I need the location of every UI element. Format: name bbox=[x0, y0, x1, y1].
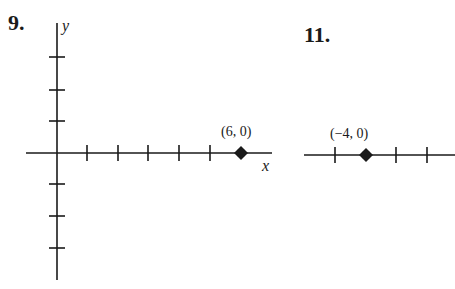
point-label-neg4-0: (−4, 0) bbox=[330, 126, 369, 142]
x-axis-label: x bbox=[261, 157, 269, 174]
problem-11-graph bbox=[304, 147, 455, 163]
problem-9-graph bbox=[26, 23, 272, 280]
point-6-0 bbox=[234, 146, 248, 160]
point-label-6-0: (6, 0) bbox=[221, 124, 252, 140]
graphs: (6, 0) x y (−4, 0) bbox=[0, 0, 455, 289]
point-neg4-0 bbox=[359, 148, 373, 162]
y-axis-label: y bbox=[60, 17, 70, 35]
